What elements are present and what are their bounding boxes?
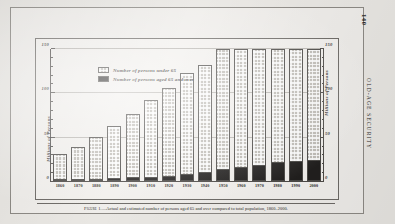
running-head: OLD-AGE SECURITY [366,78,372,149]
x-tick-label: 1890 [110,183,119,188]
bar-segment-65-and-over [235,167,247,180]
bar-segment-65-and-over [145,177,157,180]
legend-item: Number of persons under 65 [98,67,194,73]
bar-slot: 1990 [289,49,303,181]
legend-label: Number of persons aged 65 and over [113,77,194,82]
bar-segment-65-and-over [181,174,193,180]
stacked-bar [252,49,266,181]
bar-segment-under-65 [235,50,247,167]
plot-area: 050100150 050100150 Millions of Persons … [50,49,324,182]
bar-segment-65-and-over [90,179,102,180]
y-axis-title-right: Millions of Persons [324,70,329,116]
y-tick-major-right [320,181,324,182]
y-tick-label-right: 0 [325,175,328,180]
bar-slot: 1960 [234,49,248,181]
bar-segment-under-65 [145,101,157,177]
y-tick-label-left: 100 [42,86,50,91]
y-tick-label-left: 0 [47,175,50,180]
x-tick-label: 1970 [255,183,264,188]
bar-segment-under-65 [253,50,265,165]
bar-slot: 1940 [198,49,212,181]
x-tick-label: 1870 [74,183,83,188]
x-tick-label: 1910 [146,183,155,188]
bar-segment-under-65 [308,50,320,160]
scanned-page: 050100150 050100150 Millions of Persons … [0,0,395,224]
legend-swatch [98,76,109,82]
bar-segment-under-65 [127,115,139,177]
x-tick-label: 1950 [219,183,228,188]
x-tick-label: 1900 [128,183,137,188]
bar-segment-65-and-over [199,172,211,180]
bar-slot: 1980 [271,49,285,181]
bar-slot: 1870 [71,49,85,181]
stacked-bar [180,73,194,181]
stacked-bar [126,114,140,181]
page-border: 050100150 050100150 Millions of Persons … [10,7,364,214]
y-tick-major-left [51,181,55,182]
x-tick-label: 1940 [201,183,210,188]
bar-segment-65-and-over [54,179,66,180]
stacked-bar [271,49,285,181]
x-tick-label: 2000 [309,183,318,188]
y-tick-label-right: 150 [325,42,333,47]
x-tick-label: 1920 [164,183,173,188]
bar-segment-65-and-over [272,162,284,180]
bar-segment-under-65 [108,127,120,178]
chart-legend: Number of persons under 65Number of pers… [98,67,194,82]
legend-label: Number of persons under 65 [113,68,176,73]
bar-segment-65-and-over [253,165,265,180]
y-tick-label-left: 150 [42,42,50,47]
x-tick-label: 1960 [237,183,246,188]
chart-frame: 050100150 050100150 Millions of Persons … [35,38,339,200]
bar-segment-65-and-over [127,177,139,180]
x-tick-label: 1990 [291,183,300,188]
stacked-bar [216,49,230,181]
bar-segment-under-65 [163,89,175,176]
figure-number: Figure 1. [84,206,102,211]
bar-slot: 2000 [307,49,321,181]
bar-segment-under-65 [90,138,102,179]
bar-slot: 1970 [252,49,266,181]
y-tick-label-right: 50 [325,130,330,135]
stacked-bar [89,137,103,181]
stacked-bar [198,65,212,181]
stacked-bar [71,147,85,181]
bar-segment-under-65 [290,50,302,161]
bar-segment-65-and-over [163,176,175,180]
figure-caption-text: —Actual and estimated number of persons … [102,206,288,211]
bar-segment-under-65 [199,66,211,172]
bar-segment-under-65 [181,74,193,175]
stacked-bar [162,88,176,181]
caption-rule [37,203,335,204]
bar-segment-65-and-over [290,161,302,180]
stacked-bar [107,126,121,181]
y-axis-title-left: Millions of Persons [46,116,51,162]
stacked-bar [144,100,158,181]
bar-segment-under-65 [272,50,284,162]
page-number: 140 [361,14,368,26]
bar-segment-under-65 [217,50,229,169]
x-tick-label: 1980 [273,183,282,188]
bar-segment-under-65 [72,148,84,179]
bar-segment-under-65 [54,155,66,179]
stacked-bar [53,154,67,181]
bar-segment-65-and-over [217,169,229,180]
x-tick-label: 1930 [183,183,192,188]
legend-item: Number of persons aged 65 and over [98,76,194,82]
bar-segment-65-and-over [72,179,84,180]
bar-slot: 1950 [216,49,230,181]
stacked-bar [307,49,321,181]
bar-segment-65-and-over [108,178,120,180]
bar-slot: 1860 [53,49,67,181]
bar-segment-65-and-over [308,160,320,180]
x-tick-label: 1860 [56,183,65,188]
stacked-bar [289,49,303,181]
stacked-bar [234,49,248,181]
legend-swatch [98,67,109,73]
figure-caption: Figure 1.—Actual and estimated number of… [37,206,335,211]
x-tick-label: 1880 [92,183,101,188]
